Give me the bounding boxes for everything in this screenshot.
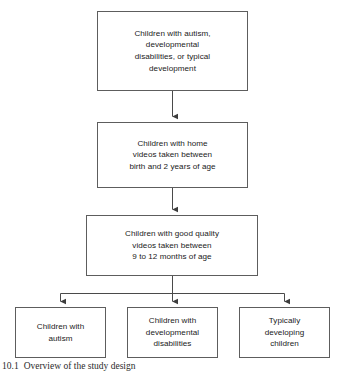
node-outcome-typical-label: Typically developing children <box>261 315 309 350</box>
node-quality-videos-label: Children with good quality videos taken … <box>121 228 223 263</box>
node-home-videos: Children with home videos taken between … <box>97 122 248 188</box>
node-outcome-autism-label: Children with autism <box>33 321 88 344</box>
node-outcome-typical: Typically developing children <box>239 307 330 358</box>
node-outcome-developmental: Children with developmental disabilities <box>127 307 218 358</box>
figure-caption: 10.1Overview of the study design <box>2 360 342 372</box>
node-home-videos-label: Children with home videos taken between … <box>125 138 219 173</box>
node-cohort: Children with autism, developmental disa… <box>97 11 248 91</box>
node-quality-videos: Children with good quality videos taken … <box>86 215 258 276</box>
figure-caption-text: Overview of the study design <box>24 361 136 371</box>
node-outcome-autism: Children with autism <box>15 307 106 358</box>
flowchart-diagram: Children with autism, developmental disa… <box>0 0 344 372</box>
node-cohort-label: Children with autism, developmental disa… <box>130 28 214 74</box>
figure-caption-number: 10.1 <box>2 361 19 371</box>
node-outcome-developmental-label: Children with developmental disabilities <box>142 315 203 350</box>
